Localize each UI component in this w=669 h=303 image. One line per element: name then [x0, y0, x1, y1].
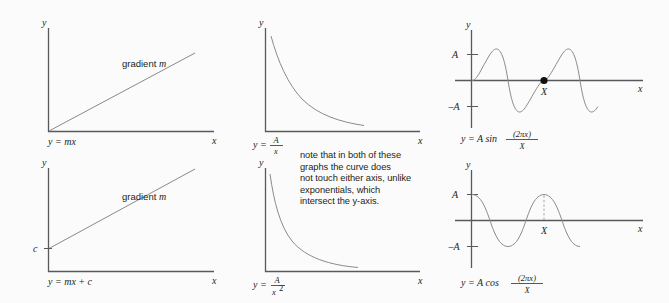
axes [49, 168, 215, 272]
x-axis-label: x [637, 83, 643, 94]
fraction-numerator: (2πx) [513, 129, 531, 139]
equation-body: mx [64, 136, 76, 147]
negative-amplitude-label: –A [447, 241, 460, 252]
period-marker-dot [540, 77, 547, 84]
panel-linear-with-intercept: c y x y = mx + c gradient m [18, 160, 228, 295]
gradient-annotation: gradient m [122, 191, 166, 202]
y-axis-label: y [258, 17, 264, 28]
equation-label: y = A x [252, 135, 283, 156]
equation-expression: y = A cos [460, 277, 499, 288]
gradient-annotation: gradient m [122, 58, 166, 69]
equation-label: y = A cos (2πx) X [460, 273, 543, 295]
equation-label: y = mx + c [47, 276, 93, 287]
gradient-annotation-symbol: m [159, 191, 166, 202]
equation-prefix: y = [252, 279, 267, 290]
equation-expression: y = A sin [460, 133, 497, 144]
period-marker-label: X [540, 86, 548, 97]
y-axis-label: y [41, 157, 47, 168]
fraction-denominator: x [271, 287, 276, 297]
fraction-denominator-exponent: 2 [279, 283, 283, 293]
period-marker-label: X [540, 225, 548, 236]
curve-series [271, 36, 364, 126]
panel-inverse-proportion: y x y = A x [240, 14, 440, 154]
equation-label: y = A x 2 [252, 275, 285, 297]
x-axis-label: x [211, 135, 217, 146]
y-axis-label: y [258, 157, 264, 168]
axes [49, 28, 215, 132]
equation-prefix: y = [47, 276, 64, 287]
equation-label: y = mx [47, 136, 76, 147]
gradient-annotation-prefix: gradient [122, 58, 159, 69]
negative-amplitude-label: –A [447, 101, 460, 112]
fraction-denominator: X [518, 141, 525, 151]
x-axis-label: x [637, 223, 643, 234]
equation-body: mx + c [64, 276, 92, 287]
equation-label: y = A sin (2πx) X [460, 129, 538, 151]
note-text: note that in both of these graphs the cu… [300, 150, 440, 208]
panel-linear-through-origin: y x y = mx gradient m [18, 14, 228, 149]
panel-sine-wave: A –A X y x y = A sin (2πx) X [438, 14, 663, 154]
panel-cosine-wave: A –A X y x y = A cos (2πx) X [438, 160, 663, 300]
amplitude-label: A [451, 49, 459, 60]
y-axis-label: y [41, 17, 47, 28]
x-axis-label: x [417, 135, 423, 146]
fraction-denominator: x [273, 146, 278, 156]
x-axis-label: x [211, 275, 217, 286]
y-axis-label: y [465, 159, 471, 170]
gradient-annotation-symbol: m [159, 58, 166, 69]
y-axis-label: y [465, 19, 471, 30]
figure-graph-shapes: y x y = mx gradient m c y x y = mx + c g… [0, 0, 669, 303]
equation-prefix: y = [252, 139, 267, 150]
amplitude-label: A [451, 189, 459, 200]
fraction-numerator: A [272, 135, 279, 145]
x-axis-label: x [417, 275, 423, 286]
gradient-annotation-prefix: gradient [122, 191, 159, 202]
equation-prefix: y = [47, 136, 64, 147]
intercept-label: c [33, 243, 38, 254]
fraction-denominator: X [523, 285, 530, 295]
line-series [49, 169, 195, 249]
fraction-numerator: (2πx) [518, 273, 536, 283]
